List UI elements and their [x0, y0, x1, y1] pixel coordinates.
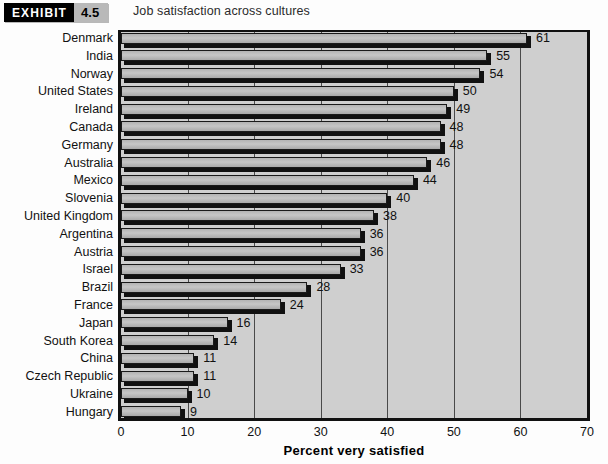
bar-row: Mexico44 — [118, 172, 590, 190]
bar-container — [121, 121, 441, 133]
bar-container — [121, 193, 387, 205]
bar-container — [121, 388, 188, 400]
bar-value-label: 38 — [383, 208, 397, 226]
bar-row: Ireland49 — [118, 101, 590, 119]
bar — [121, 121, 441, 132]
category-label: France — [74, 297, 113, 315]
bar-row: Japan16 — [118, 315, 590, 333]
bar — [121, 50, 487, 61]
category-label: Slovenia — [65, 190, 113, 208]
bar-shadow-right — [480, 71, 484, 83]
x-tick-label-50: 50 — [447, 425, 461, 439]
bar — [121, 228, 361, 239]
bar-value-label: 48 — [450, 137, 464, 155]
bar-row: South Korea14 — [118, 333, 590, 351]
bar-row: United States50 — [118, 83, 590, 101]
category-label: Argentina — [59, 226, 113, 244]
bar-value-label: 46 — [436, 155, 450, 173]
bar-container — [121, 68, 480, 80]
bar-container — [121, 210, 374, 222]
bar-container — [121, 317, 228, 329]
bar-shadow-right — [181, 409, 185, 421]
bar-container — [121, 371, 194, 383]
bar-row: China11 — [118, 350, 590, 368]
bar-shadow-right — [194, 356, 198, 368]
bar-container — [121, 406, 181, 418]
bar-shadow-right — [454, 89, 458, 101]
bar — [121, 317, 228, 328]
bar-row: Czech Republic11 — [118, 368, 590, 386]
category-label: Ukraine — [70, 386, 113, 404]
bar-container — [121, 228, 361, 240]
bar-shadow-right — [194, 374, 198, 386]
bar-rows: Denmark61India55Norway54United States50I… — [118, 30, 590, 421]
bar-container — [121, 157, 427, 169]
bar-shadow-right — [447, 107, 451, 119]
bar-container — [121, 335, 214, 347]
bar — [121, 193, 387, 204]
exhibit-title: Job satisfaction across cultures — [133, 4, 310, 18]
bar-row: Argentina36 — [118, 226, 590, 244]
bar-chart: Denmark61India55Norway54United States50I… — [0, 28, 608, 464]
bar-shadow-right — [228, 320, 232, 332]
category-label: India — [86, 48, 113, 66]
bar-shadow-right — [441, 142, 445, 154]
bar — [121, 68, 480, 79]
bar-value-label: 14 — [223, 333, 237, 351]
bar-row: Hungary9 — [118, 404, 590, 422]
category-label: Czech Republic — [25, 368, 113, 386]
bar-value-label: 61 — [536, 30, 550, 48]
bar — [121, 406, 181, 417]
x-axis: 010203040506070 — [118, 421, 590, 443]
bar-row: Denmark61 — [118, 30, 590, 48]
bar-value-label: 9 — [190, 404, 197, 422]
bar — [121, 371, 194, 382]
bar-container — [121, 50, 487, 62]
bar-row: Slovenia40 — [118, 190, 590, 208]
bar-value-label: 36 — [370, 244, 384, 262]
x-tick-label-70: 70 — [580, 425, 594, 439]
bar-value-label: 11 — [203, 350, 216, 368]
exhibit-label: EXHIBIT — [4, 3, 74, 22]
bar-value-label: 16 — [237, 315, 251, 333]
x-axis-title: Percent very satisfied — [118, 443, 590, 458]
exhibit-header: EXHIBIT 4.5 Job satisfaction across cult… — [0, 0, 608, 28]
bar — [121, 264, 341, 275]
bar-shadow-right — [527, 36, 531, 48]
exhibit-badge: EXHIBIT 4.5 — [4, 3, 108, 22]
bar-row: France24 — [118, 297, 590, 315]
bar-row: Ukraine10 — [118, 386, 590, 404]
category-label: Brazil — [82, 279, 113, 297]
bar — [121, 157, 427, 168]
exhibit-number: 4.5 — [74, 3, 108, 22]
category-label: Mexico — [73, 172, 113, 190]
bar-shadow-right — [361, 231, 365, 243]
bar-value-label: 10 — [197, 386, 211, 404]
bar-row: India55 — [118, 48, 590, 66]
bar-shadow-right — [361, 249, 365, 261]
category-label: Japan — [79, 315, 113, 333]
x-tick-label-10: 10 — [181, 425, 195, 439]
x-tick-label-0: 0 — [118, 425, 125, 439]
bar — [121, 175, 414, 186]
bar-shadow-right — [281, 302, 285, 314]
bar — [121, 335, 214, 346]
bar — [121, 353, 194, 364]
category-label: Ireland — [75, 101, 113, 119]
bar-value-label: 55 — [496, 48, 510, 66]
bar-row: Australia46 — [118, 155, 590, 173]
bar-value-label: 11 — [203, 368, 216, 386]
bar-value-label: 24 — [290, 297, 304, 315]
bar-container — [121, 264, 341, 276]
category-label: Canada — [69, 119, 113, 137]
category-label: Israel — [82, 261, 113, 279]
bar-row: Canada48 — [118, 119, 590, 137]
bar — [121, 33, 527, 44]
bar-row: Norway54 — [118, 66, 590, 84]
bar-row: Israel33 — [118, 261, 590, 279]
bar-value-label: 33 — [350, 261, 364, 279]
bar-container — [121, 86, 454, 98]
category-label: South Korea — [44, 333, 114, 351]
bar-container — [121, 299, 281, 311]
bar — [121, 388, 188, 399]
